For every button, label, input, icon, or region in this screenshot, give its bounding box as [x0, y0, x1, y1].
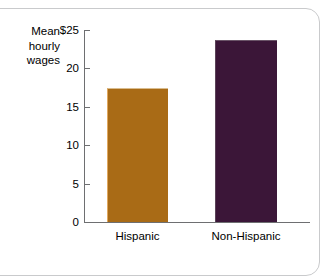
y-tick-label: $25	[60, 23, 79, 37]
y-tick-mark	[85, 145, 90, 146]
y-tick-25: $25	[84, 30, 90, 31]
x-axis-line	[84, 222, 310, 223]
y-tick-mark	[85, 30, 90, 31]
y-axis-title-line-2: hourly	[8, 39, 60, 54]
bar-non-hispanic-fill	[215, 40, 277, 222]
y-tick-label: 20	[66, 61, 79, 75]
y-tick-label: 10	[66, 138, 79, 152]
y-tick-10: 10	[84, 145, 90, 146]
bar-non-hispanic	[215, 40, 277, 222]
x-axis-label-non-hispanic: Non-Hispanic	[191, 230, 301, 242]
y-tick-20: 20	[84, 68, 90, 69]
x-axis-label-hispanic: Hispanic	[97, 230, 178, 242]
y-tick-mark	[85, 68, 90, 69]
bar-hispanic-fill	[107, 88, 168, 222]
y-tick-mark	[85, 184, 90, 185]
y-tick-15: 15	[84, 107, 90, 108]
y-tick-label: 0	[73, 215, 79, 229]
y-tick-0: 0	[84, 222, 90, 223]
plot-area: 05101520$25 Hispanic Non-Hispanic	[84, 30, 310, 222]
y-axis-title-line-1: Mean	[8, 24, 60, 39]
y-axis-title-line-3: wages	[8, 53, 60, 68]
y-axis-title: Mean hourly wages	[8, 24, 60, 68]
bar-hispanic	[107, 88, 168, 222]
y-axis-line	[84, 30, 85, 222]
y-tick-label: 5	[73, 177, 79, 191]
y-tick-5: 5	[84, 184, 90, 185]
y-tick-mark	[85, 107, 90, 108]
y-tick-mark	[85, 222, 90, 223]
y-tick-label: 15	[66, 100, 79, 114]
